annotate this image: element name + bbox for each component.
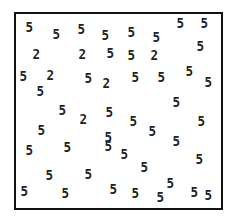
digit-glyph: 5 — [58, 103, 66, 117]
digit-glyph: 5 — [120, 147, 128, 161]
digit-glyph: 5 — [104, 139, 112, 153]
digit-glyph: 5 — [61, 186, 69, 200]
digit-glyph: 5 — [190, 185, 198, 199]
digit-glyph: 5 — [172, 95, 180, 109]
digit-glyph: 5 — [166, 176, 174, 190]
digit-glyph: 5 — [200, 16, 208, 30]
digit-glyph: 5 — [131, 70, 139, 84]
digit-glyph: 5 — [140, 160, 148, 174]
digit-glyph: 2 — [79, 112, 87, 126]
digit-glyph: 5 — [204, 75, 212, 89]
digit-glyph: 5 — [25, 20, 33, 34]
digit-glyph: 5 — [105, 105, 113, 119]
digit-glyph: 5 — [106, 46, 114, 60]
digit-glyph: 5 — [129, 114, 137, 128]
digit-glyph: 5 — [36, 84, 44, 98]
digit-glyph: 2 — [46, 68, 54, 82]
digit-glyph: 5 — [204, 188, 212, 202]
digit-glyph: 5 — [37, 123, 45, 137]
digit-glyph: 5 — [84, 167, 92, 181]
digit-glyph: 5 — [156, 190, 164, 204]
digit-glyph: 2 — [78, 47, 86, 61]
digit-glyph: 5 — [45, 168, 53, 182]
digit-glyph: 5 — [148, 124, 156, 138]
digit-glyph: 5 — [176, 16, 184, 30]
digit-glyph: 5 — [157, 70, 165, 84]
digit-glyph: 5 — [127, 25, 135, 39]
digit-glyph: 2 — [150, 48, 158, 62]
digit-glyph: 5 — [152, 30, 160, 44]
digit-glyph: 5 — [197, 114, 205, 128]
digit-glyph: 5 — [101, 28, 109, 42]
digit-glyph: 5 — [25, 143, 33, 157]
digit-glyph: 5 — [131, 186, 139, 200]
digit-glyph: 5 — [52, 27, 60, 41]
digit-glyph: 5 — [20, 184, 28, 198]
digit-glyph: 5 — [19, 69, 27, 83]
digit-glyph: 5 — [127, 48, 135, 62]
digit-glyph: 5 — [195, 152, 203, 166]
digit-glyph: 5 — [77, 22, 85, 36]
digit-glyph: 5 — [109, 182, 117, 196]
digit-glyph: 5 — [84, 71, 92, 85]
digit-glyph: 2 — [32, 47, 40, 61]
digit-glyph: 2 — [102, 76, 110, 90]
digit-glyph: 5 — [185, 64, 193, 78]
digit-glyph: 5 — [172, 134, 180, 148]
digit-glyph: 5 — [196, 39, 204, 53]
digit-glyph: 5 — [63, 140, 71, 154]
